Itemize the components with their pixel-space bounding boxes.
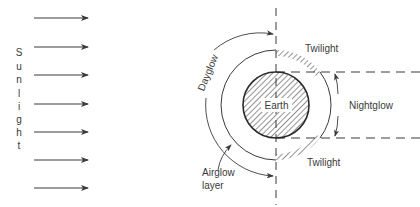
twilight-bottom-label: Twilight — [307, 157, 341, 168]
sunlight-letter: l — [18, 88, 20, 99]
nightglow-label: Nightglow — [349, 100, 394, 111]
sunlight-label: S u n l i g h t — [16, 47, 23, 151]
twilight-top-label: Twilight — [305, 43, 339, 54]
sunlight-letter: i — [18, 101, 20, 112]
dayglow-label: Dayglow — [195, 52, 220, 92]
nightglow-arc-bottom — [335, 116, 338, 136]
dayglow-arc-top — [214, 33, 273, 50]
sunlight-letter: u — [16, 61, 22, 72]
sunlight-letter: h — [16, 127, 22, 138]
airglow-label-line2: layer — [202, 180, 224, 191]
airglow-diagram: S u n l i g h t Earth Dayglow Nightglow … — [0, 0, 420, 207]
sunlight-letter: S — [16, 47, 23, 58]
earth-label: Earth — [265, 100, 289, 111]
sunlight-arrows — [34, 18, 88, 188]
airglow-label-line1: Airglow — [202, 167, 236, 178]
sunlight-letter: n — [16, 74, 22, 85]
sunlight-letter: g — [16, 114, 22, 125]
sunlight-letter: t — [18, 140, 21, 151]
nightglow-arc-top — [335, 74, 338, 94]
airglow-layer-night-arc — [320, 72, 331, 138]
